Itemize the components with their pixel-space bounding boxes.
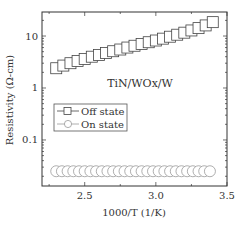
series-on-state bbox=[51, 166, 216, 177]
x-tick-label: 2.5 bbox=[77, 190, 93, 201]
x-tick-label: 3.0 bbox=[148, 190, 164, 201]
legend: Off state On state bbox=[54, 104, 127, 131]
legend-on-label: On state bbox=[81, 119, 124, 130]
on-state-circle-marker bbox=[204, 166, 215, 177]
legend-off-square-icon bbox=[64, 108, 71, 115]
legend-off-label: Off state bbox=[81, 106, 125, 117]
sample-annotation: TiN/WOx/W bbox=[107, 77, 173, 90]
x-tick-label: 3.5 bbox=[219, 190, 235, 201]
y-tick-label: 0.1 bbox=[22, 134, 38, 145]
series-off-state bbox=[51, 17, 219, 74]
y-tick-label: 1 bbox=[32, 82, 38, 93]
x-axis-label: 1000/T (1/K) bbox=[102, 207, 166, 218]
resistivity-chart: 0.1110 2.53.03.5 TiN/WOx/W Off state On … bbox=[0, 0, 242, 227]
chart-container: 0.1110 2.53.03.5 TiN/WOx/W Off state On … bbox=[0, 0, 242, 227]
y-axis-label: Resistivity (Ω-cm) bbox=[4, 55, 15, 145]
legend-on-circle-icon bbox=[64, 120, 71, 127]
y-tick-label: 10 bbox=[25, 31, 38, 42]
off-state-square-marker bbox=[207, 17, 218, 28]
plot-frame bbox=[42, 12, 227, 186]
